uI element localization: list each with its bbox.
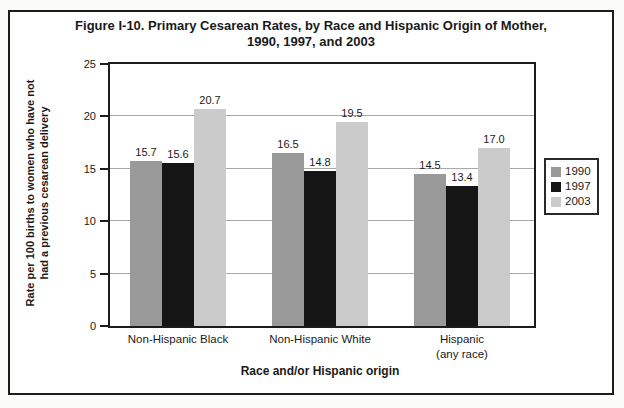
figure-title-line2: 1990, 1997, and 2003 xyxy=(10,34,612,50)
y-tick-mark-5 xyxy=(100,273,108,275)
bar-value-label: 15.6 xyxy=(167,148,188,160)
y-tick-mark-0 xyxy=(100,325,108,327)
y-tick-mark-20 xyxy=(100,115,108,117)
y-tick-mark-10 xyxy=(100,220,108,222)
legend: 199019972003 xyxy=(544,158,599,215)
bar-value-label: 14.5 xyxy=(419,159,440,171)
bar-1990-group1 xyxy=(130,161,162,326)
y-tick-label-20: 20 xyxy=(68,109,96,123)
plot-area: 15.716.514.515.614.813.420.719.517.0 xyxy=(108,62,536,328)
legend-swatch-icon xyxy=(551,167,561,177)
legend-swatch-icon xyxy=(551,182,561,192)
bar-2003-group3 xyxy=(478,148,510,326)
figure-frame: Figure I-10. Primary Cesarean Rates, by … xyxy=(8,10,614,395)
bar-value-label: 20.7 xyxy=(199,94,220,106)
bar-value-label: 17.0 xyxy=(483,133,504,145)
gridline-20 xyxy=(110,115,534,116)
legend-label: 1997 xyxy=(565,179,591,194)
y-tick-mark-15 xyxy=(100,168,108,170)
bar-1997-group2 xyxy=(304,171,336,326)
bar-value-label: 15.7 xyxy=(135,146,156,158)
legend-label: 1990 xyxy=(565,164,591,179)
y-tick-mark-25 xyxy=(100,63,108,65)
legend-item-2003: 2003 xyxy=(551,194,591,209)
y-tick-label-10: 10 xyxy=(68,214,96,228)
category-label-line: (any race) xyxy=(377,347,547,362)
y-tick-label-15: 15 xyxy=(68,162,96,176)
bar-1990-group2 xyxy=(272,153,304,326)
bar-2003-group2 xyxy=(336,122,368,326)
category-label-3: Hispanic(any race) xyxy=(377,332,547,362)
y-tick-label-5: 5 xyxy=(68,267,96,281)
bar-2003-group1 xyxy=(194,109,226,326)
bar-1990-group3 xyxy=(414,174,446,326)
x-axis-title: Race and/or Hispanic origin xyxy=(108,364,532,378)
bar-value-label: 13.4 xyxy=(451,171,472,183)
bar-value-label: 16.5 xyxy=(277,138,298,150)
category-label-line: Hispanic xyxy=(377,332,547,347)
y-tick-label-0: 0 xyxy=(68,319,96,333)
y-axis-title: Rate per 100 births to women who have no… xyxy=(23,43,53,343)
legend-item-1997: 1997 xyxy=(551,179,591,194)
y-tick-label-25: 25 xyxy=(68,57,96,71)
legend-label: 2003 xyxy=(565,194,591,209)
y-axis-title-line2: had a previous cesarean delivery xyxy=(38,106,50,279)
figure-title: Figure I-10. Primary Cesarean Rates, by … xyxy=(10,18,612,50)
legend-swatch-icon xyxy=(551,197,561,207)
figure-title-line1: Figure I-10. Primary Cesarean Rates, by … xyxy=(10,18,612,34)
bar-1997-group3 xyxy=(446,186,478,326)
legend-item-1990: 1990 xyxy=(551,164,591,179)
bar-1997-group1 xyxy=(162,163,194,326)
bar-value-label: 14.8 xyxy=(309,156,330,168)
bar-value-label: 19.5 xyxy=(341,107,362,119)
y-axis-title-line1: Rate per 100 births to women who have no… xyxy=(24,80,36,307)
